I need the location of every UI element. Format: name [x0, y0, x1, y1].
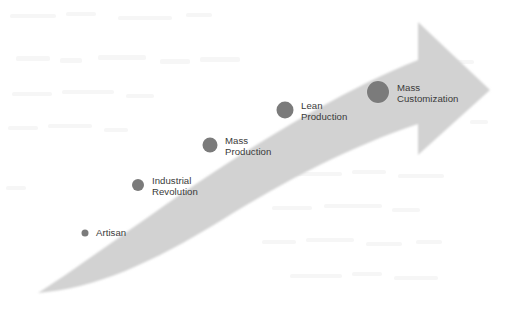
manufacturing-evolution-figure: Artisan Industrial Revolution Mass Produ… — [0, 0, 510, 310]
milestone-dot-lean-production[interactable] — [277, 102, 294, 119]
milestone-label-lean-production: Lean Production — [301, 100, 347, 123]
arrow-body-shape — [38, 22, 490, 293]
milestone-dot-mass-production[interactable] — [203, 138, 218, 153]
milestone-dot-artisan[interactable] — [82, 230, 89, 237]
milestone-label-artisan: Artisan — [96, 227, 126, 238]
milestone-dot-mass-customization[interactable] — [367, 81, 389, 103]
milestone-dot-industrial-revolution[interactable] — [132, 179, 144, 191]
milestone-label-mass-customization: Mass Customization — [397, 82, 458, 105]
milestone-label-mass-production: Mass Production — [225, 135, 271, 158]
milestone-label-industrial-revolution: Industrial Revolution — [152, 175, 198, 198]
